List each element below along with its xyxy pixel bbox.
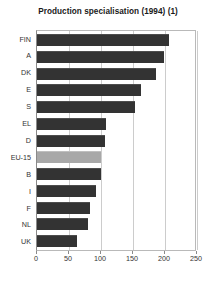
bar-slot (37, 217, 195, 231)
y-axis-label-f: F (27, 204, 33, 213)
y-axis-label-slot: E (0, 83, 33, 97)
bar-slot (37, 234, 195, 248)
bar-slot (37, 184, 195, 198)
y-axis-label-uk: UK (21, 237, 33, 246)
x-tick-label-100: 100 (94, 254, 106, 263)
y-axis-category-labels: FINADKESELDEU-15BIFNLUK (0, 30, 33, 251)
bar-chart: Production specialisation (1994) (1) FIN… (0, 0, 216, 285)
y-axis-label-s: S (26, 102, 33, 111)
bar-slot (37, 117, 195, 131)
y-axis-label-a: A (26, 51, 33, 60)
bar-i (37, 185, 96, 197)
bar-eu-15 (37, 151, 101, 163)
bar-fin (37, 34, 169, 46)
x-axis-tick-labels: 050100150200250 (0, 254, 216, 266)
y-axis-label-e: E (26, 85, 33, 94)
gridline-250 (197, 31, 198, 250)
y-axis-label-slot: B (0, 167, 33, 181)
bar-slot (37, 67, 195, 81)
chart-title: Production specialisation (1994) (1) (0, 7, 216, 17)
y-axis-label-slot: FIN (0, 32, 33, 46)
y-axis-label-dk: DK (21, 68, 33, 77)
bar-el (37, 118, 106, 130)
bar-series (37, 31, 195, 250)
y-axis-label-slot: A (0, 49, 33, 63)
bar-slot (37, 167, 195, 181)
y-axis-label-slot: S (0, 100, 33, 114)
bar-slot (37, 33, 195, 47)
y-axis-label-slot: I (0, 184, 33, 198)
y-axis-label-slot: EU-15 (0, 150, 33, 164)
bar-b (37, 168, 101, 180)
bar-slot (37, 134, 195, 148)
y-axis-label-slot: NL (0, 218, 33, 232)
bar-a (37, 51, 164, 63)
bar-slot (37, 150, 195, 164)
x-tick-label-250: 250 (190, 254, 202, 263)
bar-uk (37, 235, 77, 247)
y-axis-label-slot: EL (0, 117, 33, 131)
bar-slot (37, 201, 195, 215)
y-axis-label-i: I (29, 187, 33, 196)
y-axis-label-slot: DK (0, 66, 33, 80)
y-axis-label-d: D (26, 136, 33, 145)
bar-slot (37, 100, 195, 114)
bar-f (37, 202, 90, 214)
y-axis-label-eu-15: EU-15 (11, 153, 33, 162)
bar-e (37, 84, 141, 96)
x-tick-label-50: 50 (64, 254, 72, 263)
x-tick-label-200: 200 (158, 254, 170, 263)
y-axis-label-b: B (26, 170, 33, 179)
y-axis-label-slot: D (0, 133, 33, 147)
bar-d (37, 135, 105, 147)
y-axis-label-nl: NL (22, 220, 33, 229)
y-axis-label-fin: FIN (19, 35, 33, 44)
bar-nl (37, 218, 88, 230)
x-tick-label-150: 150 (126, 254, 138, 263)
plot-area (36, 30, 196, 251)
x-tick-label-0: 0 (34, 254, 38, 263)
bar-slot (37, 50, 195, 64)
y-axis-label-slot: F (0, 201, 33, 215)
y-axis-label-slot: UK (0, 235, 33, 249)
y-axis-label-el: EL (22, 119, 33, 128)
bar-dk (37, 68, 156, 80)
bar-s (37, 101, 135, 113)
bar-slot (37, 83, 195, 97)
